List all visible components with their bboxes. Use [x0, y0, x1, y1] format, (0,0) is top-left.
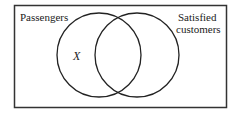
right-set-label-line1: Satisfied — [178, 12, 217, 23]
universe-label: Passengers — [20, 12, 68, 23]
left-set-circle — [57, 13, 141, 97]
region-marker-x: X — [73, 51, 80, 62]
right-set-circle — [95, 13, 179, 97]
right-set-label-line2: customers — [176, 24, 221, 35]
